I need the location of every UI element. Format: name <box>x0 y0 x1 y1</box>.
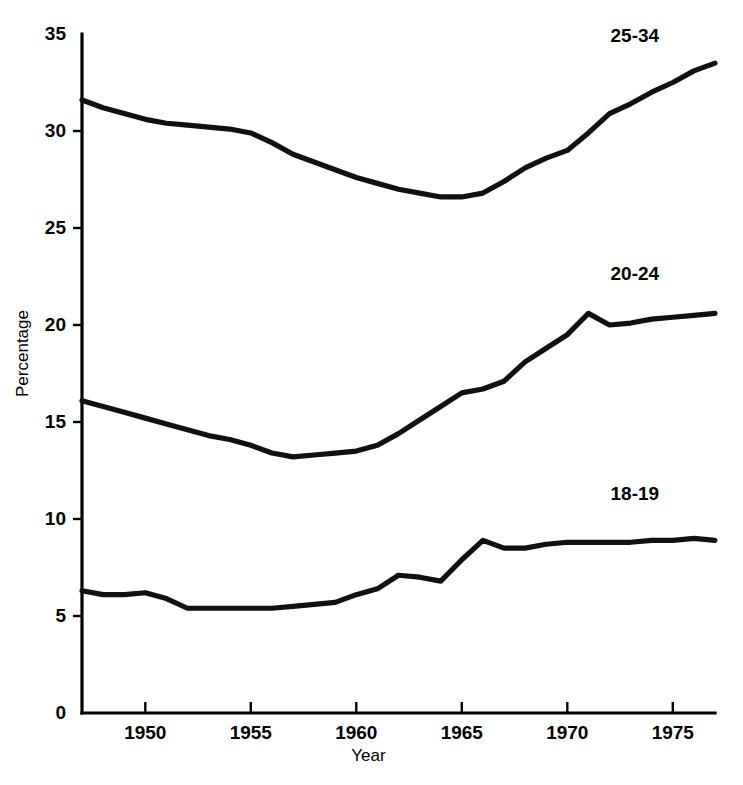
x-axis-title: Year <box>351 746 386 765</box>
axes-group <box>82 34 715 713</box>
x-tick-label: 1975 <box>652 722 695 743</box>
series-line-18-19 <box>82 538 715 608</box>
x-tick-label: 1955 <box>230 722 273 743</box>
x-tick-label: 1950 <box>124 722 166 743</box>
series-label-25-34: 25-34 <box>611 25 660 46</box>
y-tick-label: 20 <box>45 314 66 335</box>
series-labels-group: 25-3420-2418-19 <box>611 25 660 504</box>
y-tick-label: 5 <box>55 605 66 626</box>
y-axis-ticks: 05101520253035 <box>45 23 82 723</box>
x-tick-label: 1960 <box>335 722 377 743</box>
y-tick-label: 30 <box>45 120 66 141</box>
series-line-25-34 <box>82 63 715 197</box>
series-line-20-24 <box>82 313 715 457</box>
y-tick-label: 10 <box>45 508 66 529</box>
x-tick-label: 1965 <box>441 722 484 743</box>
y-axis-title: Percentage <box>13 310 32 397</box>
y-tick-label: 0 <box>55 702 66 723</box>
line-chart-figure: 05101520253035 195019551960196519701975 … <box>0 0 743 785</box>
y-tick-label: 15 <box>45 411 67 432</box>
y-tick-label: 35 <box>45 23 67 44</box>
series-label-20-24: 20-24 <box>611 263 660 284</box>
chart-svg: 05101520253035 195019551960196519701975 … <box>0 0 743 785</box>
y-tick-label: 25 <box>45 217 67 238</box>
x-axis-ticks: 195019551960196519701975 <box>124 702 694 743</box>
series-label-18-19: 18-19 <box>611 483 660 504</box>
series-lines-group <box>82 63 715 608</box>
x-tick-label: 1970 <box>546 722 588 743</box>
